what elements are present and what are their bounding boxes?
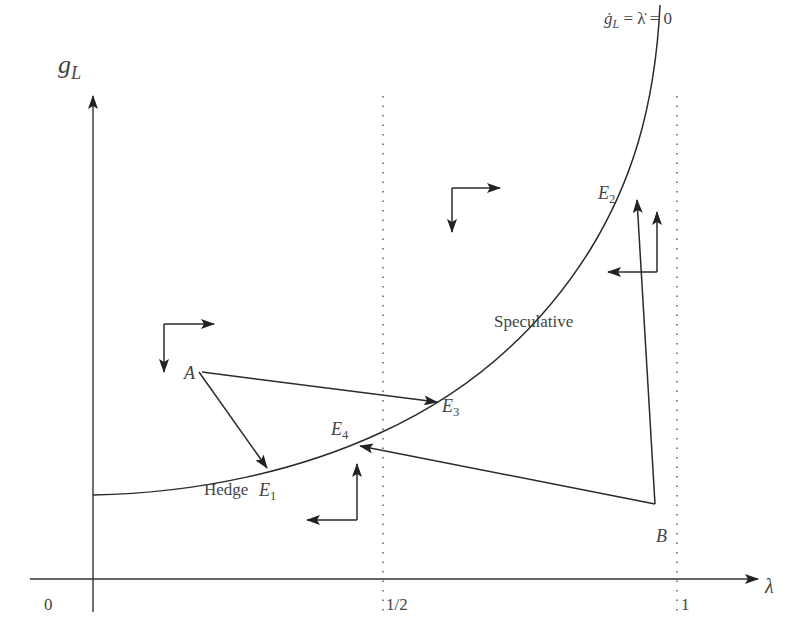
- point-label-e2: E2: [598, 184, 615, 206]
- direction-arrows-upper-middle: [452, 188, 500, 232]
- y-axis-label: gL: [58, 52, 81, 83]
- origin-label: 0: [44, 596, 53, 613]
- arrow-b-to-e2: [637, 200, 655, 504]
- point-label-a: A: [184, 364, 195, 382]
- point-label-e1: E1: [259, 481, 276, 503]
- region-label-speculative: Speculative: [494, 313, 573, 330]
- direction-arrows-right: [608, 212, 657, 272]
- tick-label-one: 1: [681, 596, 690, 613]
- region-label-hedge: Hedge: [204, 481, 248, 498]
- point-label-e4: E4: [331, 420, 348, 442]
- point-label-e3: E3: [442, 397, 459, 419]
- direction-arrows-lower-middle: [307, 464, 357, 520]
- phase-diagram: ġL = λ̇ = 0 gL λ 0 1/2 1 Speculative Hed…: [0, 0, 800, 637]
- equilibrium-curve: [93, 5, 660, 495]
- arrow-a-to-e1: [199, 372, 267, 468]
- curve-label: ġL = λ̇ = 0: [604, 10, 672, 31]
- tick-label-half: 1/2: [386, 596, 408, 613]
- arrow-a-to-e3: [202, 372, 437, 402]
- point-label-b: B: [656, 527, 667, 545]
- arrow-b-to-e4: [360, 446, 655, 504]
- x-axis-label: λ: [765, 576, 774, 596]
